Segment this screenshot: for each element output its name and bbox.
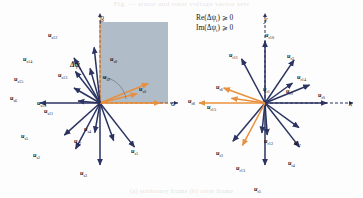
- vector-ur3[interactable]: [233, 103, 265, 141]
- vector-label-us4: us4: [84, 126, 91, 134]
- vector-label-ur12: ur12: [264, 138, 273, 146]
- vector-subscript: r15: [210, 107, 216, 112]
- vector-label-us8: us8: [110, 56, 117, 64]
- beta-text: β: [100, 15, 104, 24]
- x-text: x: [349, 99, 352, 108]
- vector-label-us3: us3: [80, 170, 87, 178]
- vector-label-ur0: ur0: [318, 92, 325, 100]
- vector-ur13[interactable]: [242, 103, 265, 145]
- vector-label-us1: us1: [131, 148, 138, 156]
- delta-psi-angle-label: Δψi: [70, 60, 81, 71]
- vector-subscript: r10: [268, 35, 274, 40]
- vector-label-us7: us7: [74, 138, 81, 146]
- vector-subscript: r2: [290, 56, 294, 61]
- bottom-caption-fragment: (a) stationary frame (b) rotor frame: [0, 187, 363, 198]
- vector-subscript: r8: [191, 101, 195, 106]
- delta-psi-sub: i: [80, 66, 81, 71]
- vector-label-us2: us2: [33, 152, 40, 160]
- vector-label-us12: us12: [48, 32, 57, 40]
- vector-label-ur4: ur4: [288, 160, 295, 168]
- vector-subscript: r3: [219, 153, 223, 158]
- vector-subscript: r13: [239, 168, 245, 173]
- vector-subscript: s13: [61, 75, 67, 80]
- alpha-text: α: [171, 99, 175, 108]
- vector-subscript: r4: [291, 163, 295, 168]
- condition-im-tail: ) ⩾ 0: [217, 23, 233, 32]
- vector-diagram-canvas: [0, 0, 363, 198]
- condition-re-tail: ) ⩾ 0: [217, 13, 233, 22]
- axis-label-y: y: [264, 16, 267, 24]
- vector-subscript: s3: [83, 173, 87, 178]
- condition-re-head: Re(Δψ: [196, 13, 216, 22]
- vector-subscript: r6: [219, 87, 223, 92]
- vector-label-ur3: ur3: [216, 150, 223, 158]
- vector-subscript: r14: [300, 77, 306, 82]
- vector-label-ur11: ur11: [229, 52, 238, 60]
- vector-subscript: r0: [321, 95, 325, 100]
- vector-us4[interactable]: [100, 103, 114, 141]
- vector-us15[interactable]: [75, 71, 100, 103]
- vector-subscript: r7: [297, 143, 301, 148]
- vector-subscript: r11: [232, 55, 237, 60]
- delta-psi-symbol: Δψ: [70, 60, 80, 69]
- vector-subscript: r1: [266, 89, 270, 94]
- vector-label-ur7: ur7: [294, 140, 301, 148]
- y-text: y: [264, 15, 267, 24]
- vector-label-ur15: ur15: [207, 104, 216, 112]
- vector-label-us9: us9: [103, 74, 110, 82]
- vector-subscript: s14: [26, 59, 32, 64]
- vector-subscript: s15: [17, 79, 23, 84]
- vector-subscript: s5: [24, 136, 28, 141]
- right-axes: [263, 13, 353, 105]
- vector-subscript: s4: [87, 129, 91, 134]
- vector-us1[interactable]: [100, 103, 134, 147]
- vector-subscript: r9: [289, 91, 293, 96]
- vector-label-ur10: ur10: [265, 32, 274, 40]
- vector-label-us0: us0: [139, 86, 146, 94]
- vector-subscript: s11: [47, 111, 53, 116]
- vector-subscript: s9: [106, 77, 110, 82]
- condition-im-head: Im(Δψ: [196, 23, 216, 32]
- vector-label-ur1: ur1: [263, 86, 270, 94]
- vector-label-ur9: ur9: [286, 88, 293, 96]
- vector-subscript: s8: [113, 59, 117, 64]
- vector-label-ur13: ur13: [236, 165, 245, 173]
- vector-subscript: s6: [13, 98, 17, 103]
- axis-label-x: x: [349, 100, 352, 108]
- vector-subscript: s7: [77, 141, 81, 146]
- vector-subscript: s1: [134, 151, 138, 156]
- vector-subscript: r12: [267, 141, 273, 146]
- vector-label-ur2: ur2: [287, 53, 294, 61]
- vector-label-ur14: ur14: [297, 74, 306, 82]
- vector-label-us6: us6: [10, 95, 17, 103]
- condition-im: Im(Δψi) ⩾ 0: [196, 24, 233, 34]
- axis-label-beta: β: [100, 16, 104, 24]
- right-vectors: [199, 41, 327, 165]
- vector-label-us11: us11: [44, 108, 53, 116]
- figure-root: Fig. — stator and rotor voltage vector s…: [0, 0, 363, 198]
- vector-subscript: s2: [36, 155, 40, 160]
- vector-label-ur8: ur8: [188, 98, 195, 106]
- vector-label-us5: us5: [21, 133, 28, 141]
- axis-label-alpha: α: [171, 100, 175, 108]
- vector-label-us14: us14: [23, 56, 32, 64]
- vector-label-us13: us13: [58, 72, 67, 80]
- vector-label-us15: us15: [14, 76, 23, 84]
- vector-subscript: s12: [51, 35, 57, 40]
- vector-subscript: s0: [142, 89, 146, 94]
- vector-label-ur6: ur6: [216, 84, 223, 92]
